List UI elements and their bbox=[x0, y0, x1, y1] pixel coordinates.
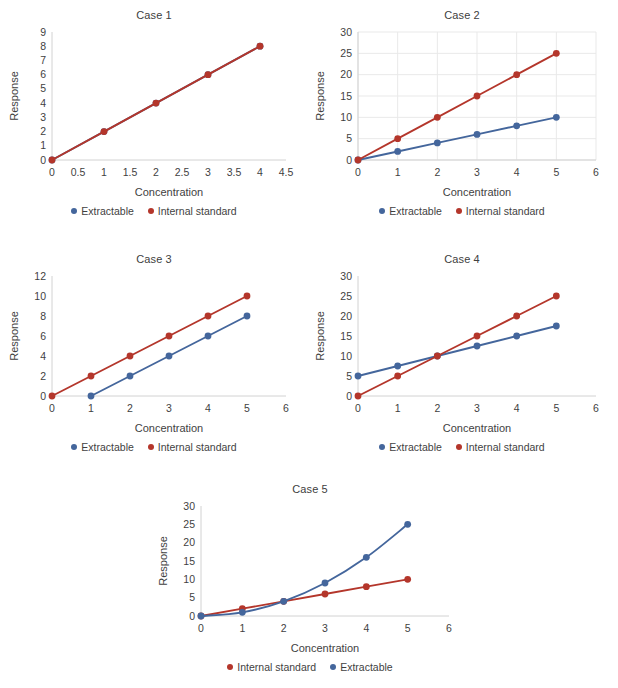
data-point-internal-standard[interactable] bbox=[205, 71, 212, 78]
legend-item-internal-standard[interactable]: Internal standard bbox=[456, 441, 545, 453]
data-point-extractable[interactable] bbox=[553, 114, 560, 121]
data-point-internal-standard[interactable] bbox=[513, 313, 520, 320]
chart-title: Case 2 bbox=[312, 8, 612, 22]
legend-label: Internal standard bbox=[158, 205, 237, 217]
data-point-extractable[interactable] bbox=[394, 363, 401, 370]
x-tick-label: 3 bbox=[474, 166, 480, 178]
legend-item-internal-standard[interactable]: Internal standard bbox=[227, 661, 316, 673]
data-point-internal-standard[interactable] bbox=[101, 128, 108, 135]
x-tick-label: 4 bbox=[257, 166, 263, 178]
y-tick-label: 30 bbox=[340, 270, 352, 282]
data-point-internal-standard[interactable] bbox=[394, 373, 401, 380]
data-point-internal-standard[interactable] bbox=[363, 583, 370, 590]
x-tick-label: 1 bbox=[395, 402, 401, 414]
chart-title: Case 3 bbox=[6, 252, 302, 266]
plot-area-case-5: 0510152025300123456ResponseConcentration bbox=[155, 496, 465, 658]
plot-area-case-1: 012345678900.511.522.533.544.5ResponseCo… bbox=[6, 22, 302, 202]
chart-legend: ExtractableInternal standard bbox=[312, 440, 612, 454]
chart-title: Case 5 bbox=[155, 482, 465, 496]
x-tick-label: 1 bbox=[101, 166, 107, 178]
legend-item-extractable[interactable]: Extractable bbox=[71, 441, 134, 453]
data-point-internal-standard[interactable] bbox=[355, 393, 362, 400]
data-point-internal-standard[interactable] bbox=[474, 93, 481, 100]
data-point-internal-standard[interactable] bbox=[49, 157, 56, 164]
legend-label: Extractable bbox=[81, 205, 134, 217]
x-tick-label: 0 bbox=[49, 402, 55, 414]
x-axis-title: Concentration bbox=[135, 422, 204, 434]
figure-grid: Case 1 012345678900.511.522.533.544.5Res… bbox=[0, 0, 618, 688]
x-axis-title: Concentration bbox=[135, 186, 204, 198]
data-point-extractable[interactable] bbox=[127, 373, 134, 380]
data-point-extractable[interactable] bbox=[474, 343, 481, 350]
data-point-extractable[interactable] bbox=[205, 333, 212, 340]
data-point-extractable[interactable] bbox=[553, 323, 560, 330]
data-point-internal-standard[interactable] bbox=[404, 576, 411, 583]
data-point-extractable[interactable] bbox=[513, 333, 520, 340]
legend-item-internal-standard[interactable]: Internal standard bbox=[456, 205, 545, 217]
data-point-internal-standard[interactable] bbox=[127, 353, 134, 360]
data-point-extractable[interactable] bbox=[434, 140, 441, 147]
data-point-extractable[interactable] bbox=[280, 598, 287, 605]
data-point-internal-standard[interactable] bbox=[434, 353, 441, 360]
y-tick-label: 20 bbox=[340, 310, 352, 322]
y-tick-label: 10 bbox=[183, 573, 195, 585]
data-point-extractable[interactable] bbox=[363, 554, 370, 561]
legend-label: Internal standard bbox=[158, 441, 237, 453]
y-tick-label: 30 bbox=[183, 500, 195, 512]
data-point-extractable[interactable] bbox=[474, 131, 481, 138]
x-tick-label: 2 bbox=[281, 622, 287, 634]
legend-item-extractable[interactable]: Extractable bbox=[330, 661, 393, 673]
legend-label: Extractable bbox=[81, 441, 134, 453]
plot-area-case-3: 0246810120123456ResponseConcentration bbox=[6, 266, 302, 438]
data-point-internal-standard[interactable] bbox=[205, 313, 212, 320]
data-point-extractable[interactable] bbox=[239, 609, 246, 616]
chart-legend: Internal standardExtractable bbox=[155, 660, 465, 674]
series-line-internal-standard bbox=[201, 579, 408, 616]
data-point-internal-standard[interactable] bbox=[257, 43, 264, 50]
legend-marker-icon bbox=[227, 664, 233, 670]
data-point-internal-standard[interactable] bbox=[166, 333, 173, 340]
chart-svg-case-5: 0510152025300123456ResponseConcentration bbox=[155, 496, 465, 658]
data-point-internal-standard[interactable] bbox=[49, 393, 56, 400]
x-tick-label: 5 bbox=[244, 402, 250, 414]
y-tick-label: 4 bbox=[40, 350, 46, 362]
x-tick-label: 6 bbox=[593, 402, 599, 414]
x-tick-label: 4 bbox=[514, 402, 520, 414]
data-point-extractable[interactable] bbox=[513, 122, 520, 129]
legend-label: Internal standard bbox=[466, 441, 545, 453]
data-point-extractable[interactable] bbox=[166, 353, 173, 360]
data-point-internal-standard[interactable] bbox=[394, 135, 401, 142]
data-point-internal-standard[interactable] bbox=[474, 333, 481, 340]
data-point-internal-standard[interactable] bbox=[434, 114, 441, 121]
y-tick-label: 7 bbox=[40, 54, 46, 66]
data-point-extractable[interactable] bbox=[88, 393, 95, 400]
panel-case-1: Case 1 012345678900.511.522.533.544.5Res… bbox=[6, 8, 302, 230]
chart-title: Case 1 bbox=[6, 8, 302, 22]
data-point-internal-standard[interactable] bbox=[322, 591, 329, 598]
panel-case-3: Case 3 0246810120123456ResponseConcentra… bbox=[6, 252, 302, 462]
data-point-internal-standard[interactable] bbox=[88, 373, 95, 380]
data-point-internal-standard[interactable] bbox=[153, 100, 160, 107]
legend-item-internal-standard[interactable]: Internal standard bbox=[148, 441, 237, 453]
x-tick-label: 0 bbox=[355, 166, 361, 178]
legend-item-internal-standard[interactable]: Internal standard bbox=[148, 205, 237, 217]
data-point-internal-standard[interactable] bbox=[355, 157, 362, 164]
panel-case-4: Case 4 0510152025300123456ResponseConcen… bbox=[312, 252, 612, 462]
data-point-internal-standard[interactable] bbox=[513, 71, 520, 78]
data-point-extractable[interactable] bbox=[322, 580, 329, 587]
series-line-extractable bbox=[358, 326, 556, 376]
data-point-extractable[interactable] bbox=[404, 521, 411, 528]
data-point-extractable[interactable] bbox=[394, 148, 401, 155]
y-tick-label: 15 bbox=[183, 555, 195, 567]
legend-item-extractable[interactable]: Extractable bbox=[379, 205, 442, 217]
legend-item-extractable[interactable]: Extractable bbox=[379, 441, 442, 453]
y-axis-title: Response bbox=[157, 536, 169, 586]
legend-item-extractable[interactable]: Extractable bbox=[71, 205, 134, 217]
data-point-extractable[interactable] bbox=[198, 613, 205, 620]
data-point-internal-standard[interactable] bbox=[553, 50, 560, 57]
chart-legend: ExtractableInternal standard bbox=[312, 204, 612, 218]
data-point-internal-standard[interactable] bbox=[553, 293, 560, 300]
data-point-extractable[interactable] bbox=[244, 313, 251, 320]
data-point-internal-standard[interactable] bbox=[244, 293, 251, 300]
data-point-extractable[interactable] bbox=[355, 373, 362, 380]
